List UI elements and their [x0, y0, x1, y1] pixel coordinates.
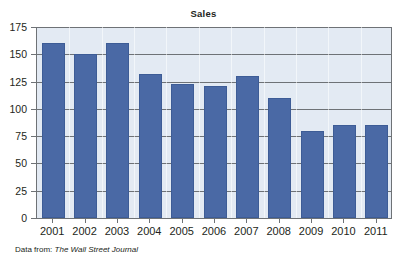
source-publication: The Wall Street Journal: [55, 245, 138, 254]
x-tick-label: 2010: [327, 226, 359, 237]
x-tick-mark: [85, 218, 86, 223]
x-tick-label: 2006: [198, 226, 230, 237]
sales-bar-chart: Sales 0255075100125150175 20012002200320…: [0, 0, 407, 263]
x-tick-mark: [376, 218, 377, 223]
x-tick-mark: [343, 218, 344, 223]
x-tick-mark: [117, 218, 118, 223]
x-tick-mark: [246, 218, 247, 223]
x-tick-mark: [149, 218, 150, 223]
x-tick-mark: [279, 218, 280, 223]
x-tick-label: 2001: [36, 226, 68, 237]
x-tick-label: 2003: [101, 226, 133, 237]
x-tick-label: 2002: [68, 226, 100, 237]
x-tick-mark: [214, 218, 215, 223]
x-tick-label: 2004: [133, 226, 165, 237]
x-tick-label: 2007: [230, 226, 262, 237]
x-tick-label: 2011: [360, 226, 392, 237]
x-tick-mark: [311, 218, 312, 223]
x-tick-label: 2005: [165, 226, 197, 237]
x-tick-label: 2009: [295, 226, 327, 237]
x-tick-label: 2008: [263, 226, 295, 237]
x-tick-mark: [52, 218, 53, 223]
source-prefix: Data from:: [15, 245, 52, 254]
x-axis: 2001200220032004200520062007200820092010…: [0, 0, 407, 263]
x-tick-mark: [182, 218, 183, 223]
source-note: Data from: The Wall Street Journal: [15, 245, 138, 254]
